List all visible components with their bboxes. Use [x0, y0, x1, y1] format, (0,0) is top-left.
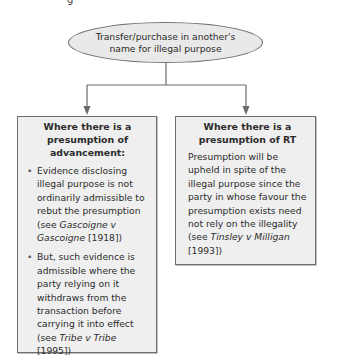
- branch-resulting-trust-title: Where there is a presumption of RT: [188, 120, 307, 146]
- case-citation: Tinsley v Milligan: [211, 231, 290, 242]
- branch-advancement: Where there is a presumption of advancem…: [17, 116, 157, 353]
- branch-advancement-bullets: Evidence disclosing illegal purpose is n…: [27, 164, 148, 358]
- case-year: [1995]): [37, 345, 71, 356]
- branch-resulting-trust: Where there is a presumption of RT Presu…: [175, 116, 316, 265]
- case-year: [1918]): [85, 232, 122, 243]
- bullet-item: But, such evidence is admissible where t…: [27, 250, 148, 357]
- bullet-item: Evidence disclosing illegal purpose is n…: [27, 164, 148, 244]
- root-node: Transfer/purchase in another's name for …: [68, 22, 263, 63]
- body-text: Presumption will be upheld in spite of t…: [188, 151, 306, 242]
- case-year: [1993]): [188, 245, 222, 256]
- branch-advancement-title: Where there is a presumption of advancem…: [27, 120, 148, 159]
- arrowhead-right: [243, 106, 250, 115]
- bullet-text: But, such evidence is admissible where t…: [37, 251, 135, 342]
- case-citation: Tribe v Tribe: [60, 332, 117, 343]
- arrowhead-left: [84, 106, 91, 115]
- branch-resulting-trust-text: Presumption will be upheld in spite of t…: [188, 150, 307, 257]
- root-node-label: Transfer/purchase in another's name for …: [87, 31, 244, 55]
